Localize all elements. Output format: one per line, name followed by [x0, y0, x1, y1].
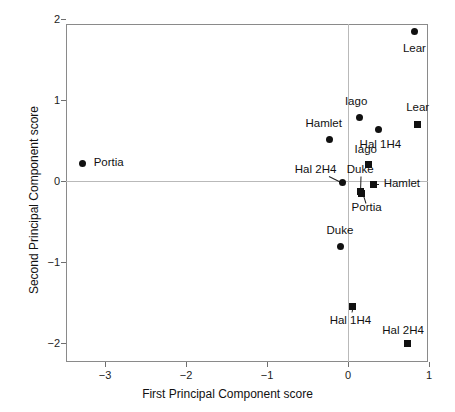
point-label-hamlet: Hamlet	[305, 117, 341, 129]
point-label-duke: Duke	[326, 224, 353, 236]
y-tick	[61, 181, 66, 182]
data-point-circle-hamlet	[326, 136, 333, 143]
data-point-circle-portia	[79, 160, 86, 167]
plot-area	[66, 24, 428, 362]
y-tick-label: −2	[36, 337, 60, 349]
point-label-hal-1h4: Hal 1H4	[330, 314, 372, 326]
x-tick	[267, 362, 268, 367]
x-tick-label: −1	[261, 369, 274, 381]
y-tick-label: 2	[36, 13, 60, 25]
y-tick-label: −1	[36, 256, 60, 268]
data-point-square-lear	[414, 121, 421, 128]
point-label-iago: Iago	[345, 95, 367, 107]
data-point-circle-hal-2h4	[339, 179, 346, 186]
x-axis-title: First Principal Component score	[0, 387, 455, 401]
x-tick-label: −2	[180, 369, 193, 381]
y-tick	[61, 343, 66, 344]
x-tick-label: −3	[99, 369, 112, 381]
y-tick	[61, 19, 66, 20]
x-tick	[348, 362, 349, 367]
y-tick-label: 0	[36, 175, 60, 187]
x-tick-label: 1	[426, 369, 432, 381]
data-point-square-hamlet	[370, 181, 377, 188]
y-tick-label: 1	[36, 94, 60, 106]
point-label-lear: Lear	[406, 101, 429, 113]
point-label-hal-2h4: Hal 2H4	[295, 163, 337, 175]
data-point-square-hal-2h4	[404, 340, 411, 347]
y-tick	[61, 262, 66, 263]
x-tick-label: 0	[345, 369, 351, 381]
point-label-hal-2h4: Hal 2H4	[382, 324, 424, 336]
zero-line-vertical	[348, 24, 349, 362]
point-label-lear: Lear	[403, 42, 426, 54]
y-tick	[61, 100, 66, 101]
point-label-portia: Portia	[352, 201, 382, 213]
data-point-circle-lear	[411, 28, 418, 35]
point-label-hamlet: Hamlet	[384, 177, 420, 189]
x-tick	[186, 362, 187, 367]
x-tick	[429, 362, 430, 367]
scatter-plot-figure: First Principal Component score Second P…	[0, 0, 455, 412]
data-point-square-portia	[358, 190, 365, 197]
point-label-portia: Portia	[94, 156, 124, 168]
point-label-duke: Duke	[347, 163, 374, 175]
point-label-iago: Iago	[355, 143, 377, 155]
x-tick	[105, 362, 106, 367]
data-point-square-hal-1h4	[349, 303, 356, 310]
